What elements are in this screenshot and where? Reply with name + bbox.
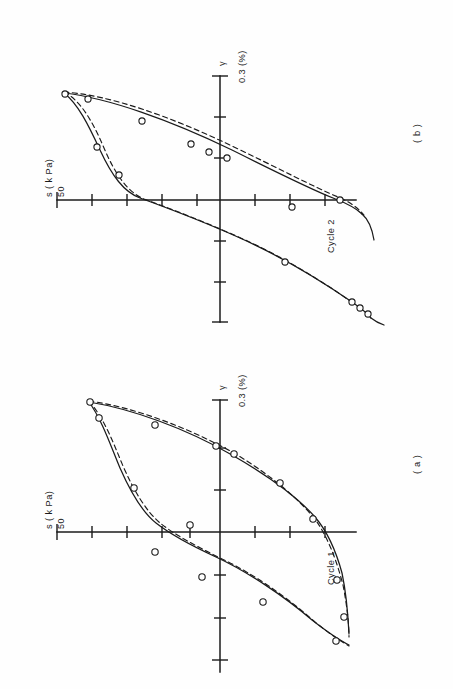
panel-a-model-curve [89, 401, 349, 646]
panel-b-experimental-curve-tail [362, 214, 384, 325]
hysteresis-figure-svg: s ( k Pa) 50 γ 0.3 (%) Cycle 2 ( b ) [0, 0, 453, 689]
panel-b-strain-axis-value: 0.3 (%) [237, 50, 247, 83]
panel-a-data-points [87, 399, 347, 644]
panel-cycle-1: s ( k Pa) 50 γ 0.3 (%) Cycle 1 ( a ) [44, 374, 422, 672]
panel-a-strain-axis [212, 400, 228, 672]
panel-a-tag: ( a ) [412, 454, 422, 474]
panel-b-cycle-label: Cycle 2 [326, 219, 336, 253]
panel-a-strain-axis-value: 0.3 (%) [237, 374, 247, 407]
panel-a-stress-axis-label: s ( k Pa) [44, 491, 54, 529]
panel-cycle-2: s ( k Pa) 50 γ 0.3 (%) Cycle 2 ( b ) [44, 50, 422, 325]
panel-b-stress-axis [57, 192, 356, 208]
panel-a-cycle-label: Cycle 1 [326, 551, 336, 585]
panel-b-model-curve [64, 92, 364, 303]
panel-b-stress-axis-value: 50 [56, 186, 66, 197]
panel-a-experimental-curve [89, 402, 349, 645]
panel-b-strain-axis-symbol: γ [217, 61, 227, 66]
figure-canvas: s ( k Pa) 50 γ 0.3 (%) Cycle 2 ( b ) [0, 0, 453, 689]
panel-b-stress-axis-label: s ( k Pa) [44, 159, 54, 197]
panel-b-tag: ( b ) [412, 123, 422, 143]
panel-a-strain-axis-symbol: γ [217, 385, 227, 390]
panel-b-strain-axis [212, 76, 228, 322]
panel-a-stress-axis-value: 50 [56, 518, 66, 529]
panel-a-stress-axis [57, 524, 356, 540]
